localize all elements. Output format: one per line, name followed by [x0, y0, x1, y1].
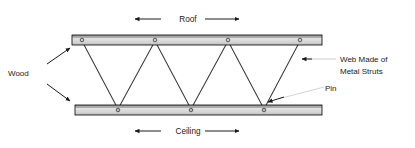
web-label-line1: Web Made of [340, 55, 388, 64]
pin-annotation: Pin [268, 84, 337, 102]
pin-label: Pin [325, 84, 337, 93]
web-struts-group [82, 41, 300, 109]
pin-icon [262, 108, 266, 112]
wood-label: Wood [8, 69, 29, 78]
ceiling-label: Ceiling [175, 127, 200, 136]
roof-label: Roof [179, 15, 197, 24]
strut-4 [191, 41, 228, 109]
web-annotation: Web Made of Metal Struts [302, 55, 388, 76]
ceiling-annotation: Ceiling [135, 127, 239, 136]
pin-leader-line [278, 87, 324, 99]
bottom-chord-wood-beam [75, 105, 322, 115]
roof-annotation: Roof [135, 15, 239, 24]
strut-3 [155, 41, 191, 109]
pin-icon [298, 38, 302, 42]
strut-5 [228, 41, 264, 109]
pin-icon [80, 38, 84, 42]
strut-1 [82, 41, 118, 109]
top-chord-wood-beam [72, 35, 322, 45]
wood-up-arrow-icon [47, 48, 70, 64]
diagram-canvas: Roof Ceiling Wood Web Made of Metal Stru… [0, 0, 415, 148]
strut-2 [118, 41, 155, 109]
pin-icon [116, 108, 120, 112]
wood-down-arrow-icon [47, 84, 70, 101]
wood-annotation: Wood [8, 48, 70, 101]
pin-icon [226, 38, 230, 42]
truss-diagram: Roof Ceiling Wood Web Made of Metal Stru… [0, 0, 415, 148]
pin-icon [153, 38, 157, 42]
pin-icon [189, 108, 193, 112]
web-label-line2: Metal Struts [340, 67, 383, 76]
strut-6 [264, 41, 300, 109]
